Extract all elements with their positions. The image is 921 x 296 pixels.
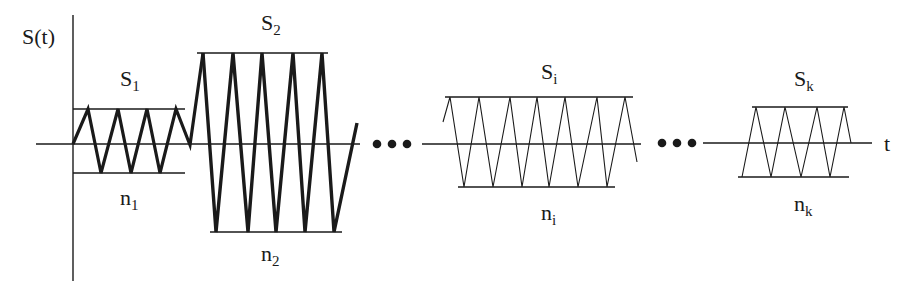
ellipsis-dots-1: [373, 140, 412, 149]
x-axis-label: t: [884, 131, 890, 156]
segment-k-upper-label: Sk: [794, 66, 814, 94]
y-axis-label: S(t): [22, 24, 55, 49]
segment-i: [443, 97, 637, 187]
segment-1-lower-label: n1: [120, 185, 139, 213]
ellipsis-dots-2: [658, 139, 697, 148]
segment-k: [738, 107, 851, 177]
load-spectrum-diagram: S(t) t S1 n1 S2 n2 Si ni Sk nk: [0, 0, 921, 296]
segment-2-lower-label: n2: [261, 241, 280, 269]
segment-k-waveform: [742, 107, 851, 177]
segment-2-upper-label: S2: [261, 10, 281, 38]
diagram-canvas: S(t) t S1 n1 S2 n2 Si ni Sk nk: [0, 0, 921, 296]
segment-i-waveform: [443, 97, 637, 187]
segment-i-lower-label: ni: [541, 200, 556, 228]
segment-1-upper-label: S1: [120, 66, 140, 94]
segment-2-waveform: [203, 53, 357, 232]
segment-1: [73, 53, 203, 173]
segment-2: [197, 53, 357, 232]
segment-i-upper-label: Si: [541, 59, 557, 87]
segment-k-lower-label: nk: [794, 191, 813, 219]
segment-1-waveform: [73, 53, 203, 173]
